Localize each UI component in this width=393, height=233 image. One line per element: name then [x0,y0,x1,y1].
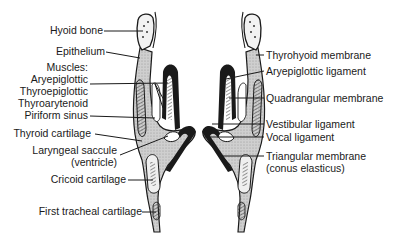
right-piriform-sinus [238,83,246,122]
label-laryngeal-saccule: Laryngeal saccule [32,145,117,156]
label-piriform-sinus: Piriform sinus [24,110,88,121]
right-larynx-half [202,12,265,232]
label-first-tracheal-cartilage: First tracheal cartilage [39,206,142,217]
label-laryngeal-saccule-sub: (ventricle) [71,157,117,168]
label-cricoid-cartilage: Cricoid cartilage [51,174,126,185]
label-thyrohyoid-membrane: Thyrohyoid membrane [266,50,371,61]
label-vestibular-ligament: Vestibular ligament [266,119,355,130]
label-thyroid-cartilage: Thyroid cartilage [13,128,91,139]
label-triangular-membrane: Triangular membrane [266,151,366,162]
right-thyroid-cartilage [252,80,262,137]
label-epithelium: Epithelium [56,46,105,57]
label-triangular-membrane-sub: (conus elasticus) [266,163,345,174]
label-thyroepiglottic-muscle: Thyroepiglottic [20,86,88,97]
left-thyroid-cartilage [136,80,146,137]
label-muscles-heading: Muscles: [47,62,88,73]
label-aryepiglottic-muscle: Aryepiglottic [31,74,88,85]
left-tracheal-cartilage [153,202,160,220]
right-tracheal-cartilage [238,202,245,220]
label-vocal-ligament: Vocal ligament [266,132,334,143]
label-hyoid-bone: Hyoid bone [50,25,103,36]
label-aryepiglottic-ligament: Aryepiglottic ligament [266,66,366,77]
left-larynx-half [133,12,196,232]
label-quadrangular-membrane: Quadrangular membrane [266,93,383,104]
right-hyoid-bone [244,14,261,50]
label-thyroarytenoid-muscle: Thyroarytenoid [18,98,88,109]
left-hyoid-bone [137,14,154,50]
left-piriform-sinus [152,83,160,122]
